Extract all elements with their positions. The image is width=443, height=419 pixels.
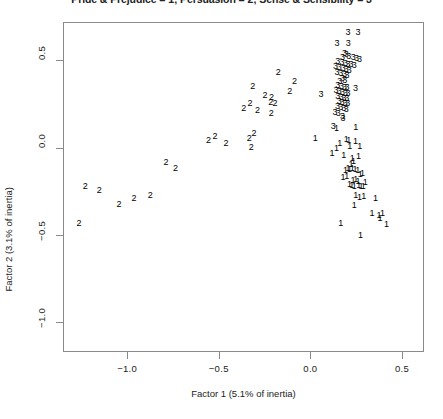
data-point: 2: [292, 77, 297, 86]
data-point: 1: [384, 219, 389, 228]
data-point: 2: [276, 68, 281, 77]
x-tick-mark: [219, 352, 220, 359]
data-point: 2: [287, 87, 292, 96]
x-axis-title: Factor 1 (5.1% of inertia): [63, 388, 424, 399]
x-tick-mark: [402, 352, 403, 359]
data-point: 3: [357, 55, 362, 64]
data-point: 3: [334, 38, 339, 47]
data-point: 3: [353, 83, 358, 92]
data-point: 1: [361, 181, 366, 190]
data-point: 1: [369, 208, 374, 217]
data-point: 2: [247, 98, 252, 107]
data-point: 2: [206, 136, 211, 145]
y-tick-mark: [56, 322, 63, 323]
data-point: 2: [224, 138, 229, 147]
y-tick-mark: [56, 60, 63, 61]
chart-title: Pride & Prejudice = 1; Persuasion = 2; S…: [0, 0, 443, 5]
data-point: 1: [361, 192, 366, 201]
data-point: 3: [340, 113, 345, 122]
data-point: 1: [358, 230, 363, 239]
data-point: 3: [345, 28, 350, 37]
x-tick-label: −0.5: [209, 363, 229, 374]
data-point: 3: [346, 39, 351, 48]
data-point: 2: [269, 109, 274, 118]
data-point: 1: [340, 173, 345, 182]
data-point: 2: [255, 106, 260, 115]
data-point: 1: [347, 141, 352, 150]
plot-data-area: 3333333333333333333333333333333333333333…: [63, 22, 424, 352]
data-point: 1: [334, 144, 339, 153]
data-point: 3: [356, 28, 361, 37]
data-point: 3: [318, 89, 323, 98]
data-point: 2: [241, 103, 246, 112]
data-point: 2: [250, 81, 255, 90]
data-point: 1: [313, 133, 318, 142]
x-tick-mark: [310, 352, 311, 359]
data-point: 1: [356, 152, 361, 161]
data-point: 3: [352, 60, 357, 69]
data-point: 1: [341, 151, 346, 160]
data-point: 2: [251, 129, 256, 138]
data-point: 2: [131, 194, 136, 203]
data-point: 2: [97, 185, 102, 194]
data-point: 2: [173, 163, 178, 172]
scatter-plot-figure: Pride & Prejudice = 1; Persuasion = 2; S…: [0, 0, 443, 419]
data-point: 1: [338, 218, 343, 227]
data-point: 2: [249, 143, 254, 152]
data-point: 1: [334, 124, 339, 133]
x-tick-label: −1.0: [117, 363, 137, 374]
y-tick-label: 0.5: [36, 46, 47, 60]
data-point: 2: [148, 190, 153, 199]
y-tick-mark: [56, 148, 63, 149]
data-point: 1: [373, 194, 378, 203]
data-point: 2: [77, 218, 82, 227]
data-point: 2: [273, 99, 278, 108]
data-point: 1: [329, 148, 334, 157]
data-point: 1: [357, 141, 362, 150]
x-tick-mark: [127, 352, 128, 359]
y-axis-title: Factor 2 (3.1% of inertia): [3, 187, 14, 292]
data-point: 1: [378, 214, 383, 223]
y-tick-label: 0.0: [36, 134, 47, 148]
data-point: 2: [117, 199, 122, 208]
data-point: 1: [353, 123, 358, 132]
data-point: 2: [83, 181, 88, 190]
x-tick-label: 0.5: [395, 363, 409, 374]
y-tick-label: −0.5: [36, 221, 47, 241]
y-tick-mark: [56, 235, 63, 236]
x-tick-label: 0.0: [303, 363, 317, 374]
y-tick-label: −1.0: [36, 308, 47, 328]
data-point: 2: [213, 131, 218, 140]
data-point: 2: [163, 158, 168, 167]
data-point: 2: [262, 91, 267, 100]
data-point: 1: [352, 201, 357, 210]
